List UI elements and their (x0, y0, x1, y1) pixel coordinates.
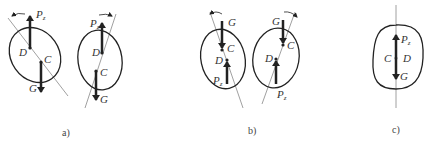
point-c (39, 60, 42, 63)
panel-b-body-2: G C D Pz (248, 12, 304, 104)
panel-a-body-1: Pz D C G (0, 8, 71, 96)
point-cd (394, 56, 397, 59)
point-d-label: D (18, 46, 27, 58)
panel-b-body-1: G C D Pz (195, 12, 251, 108)
point-c-label: C (100, 66, 108, 78)
point-c (94, 69, 97, 72)
weight-label: G (29, 82, 37, 94)
weight-label: G (228, 16, 236, 28)
point-d-label: D (91, 46, 100, 58)
rotation-arrow (99, 14, 112, 16)
thrust-label: Pz (89, 17, 100, 31)
point-d (274, 57, 277, 60)
thrust-label: Pz (276, 88, 287, 102)
thrust-label: Pz (35, 8, 46, 22)
point-c-label: C (287, 39, 295, 51)
caption-c: c) (392, 124, 400, 136)
point-d (28, 46, 31, 49)
point-d-label: D (264, 52, 273, 64)
weight-label: G (400, 70, 408, 82)
weight-label: G (100, 93, 108, 105)
caption-a: a) (62, 127, 70, 139)
body-outline (373, 25, 423, 89)
panel-c-body: Pz C D G (373, 5, 423, 108)
body-outline (74, 27, 126, 93)
point-c-label: C (384, 52, 392, 64)
force-diagram: Pz D C G Pz D C G G C D Pz (0, 0, 426, 151)
point-c-label: C (227, 42, 235, 54)
axis-line (8, 18, 68, 96)
rotation-arrow (210, 12, 222, 14)
point-d-label: D (214, 54, 223, 66)
caption-b: b) (248, 125, 256, 137)
point-c-label: C (44, 53, 52, 65)
point-c (220, 48, 223, 51)
panel-a-body-2: Pz D C G (74, 14, 126, 108)
rotation-arrow (12, 13, 25, 16)
point-d (225, 58, 228, 61)
thrust-label: Pz (400, 33, 411, 47)
point-d-label: D (402, 52, 411, 64)
diagram-svg: Pz D C G Pz D C G G C D Pz (0, 0, 426, 151)
thrust-label: Pz (212, 74, 223, 88)
point-c (281, 43, 284, 46)
weight-label: G (272, 15, 280, 27)
point-d (100, 51, 103, 54)
